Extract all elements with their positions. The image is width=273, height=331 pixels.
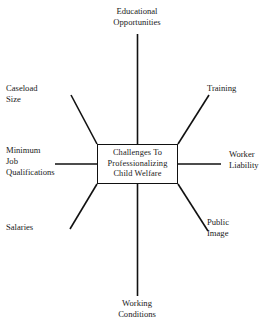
- node-label-line: Worker: [229, 149, 273, 160]
- node-label-line: Size: [6, 94, 68, 105]
- center-node-line-2: Professionalizing: [108, 159, 168, 170]
- spoke-line-bottom-left: [70, 184, 97, 229]
- node-label-caseload-size: Caseload Size: [6, 83, 68, 105]
- radial-diagram: Challenges To Professionalizing Child We…: [0, 0, 273, 331]
- spoke-line-top-right: [178, 95, 209, 144]
- node-label-working-conditions: Working Conditions: [88, 298, 186, 320]
- node-label-line: Conditions: [88, 309, 186, 320]
- node-label-line: Image: [207, 228, 267, 239]
- node-label-educational-opportunities: Educational Opportunities: [88, 6, 186, 28]
- center-node-line-3: Child Welfare: [113, 169, 161, 180]
- node-label-line: Opportunities: [88, 17, 186, 28]
- node-label-line: Liability: [229, 160, 273, 171]
- node-label-line: Training: [207, 83, 267, 94]
- spoke-line-top-left: [71, 95, 97, 144]
- node-label-line: Working: [88, 298, 186, 309]
- node-label-line: Minimum: [6, 145, 68, 156]
- center-node: Challenges To Professionalizing Child We…: [97, 144, 178, 184]
- node-label-line: Public: [207, 217, 267, 228]
- node-label-public-image: Public Image: [207, 217, 267, 239]
- node-label-training: Training: [207, 83, 267, 94]
- node-label-minimum-job-qualifications: Minimum Job Qualifications: [6, 145, 68, 179]
- spoke-line-bottom-right: [178, 184, 208, 231]
- node-label-line: Qualifications: [6, 167, 68, 178]
- node-label-salaries: Salaries: [6, 222, 66, 233]
- node-label-line: Educational: [88, 6, 186, 17]
- node-label-line: Job: [6, 156, 68, 167]
- node-label-line: Salaries: [6, 222, 66, 233]
- node-label-worker-liability: Worker Liability: [229, 149, 273, 171]
- node-label-line: Caseload: [6, 83, 68, 94]
- center-node-line-1: Challenges To: [113, 148, 162, 159]
